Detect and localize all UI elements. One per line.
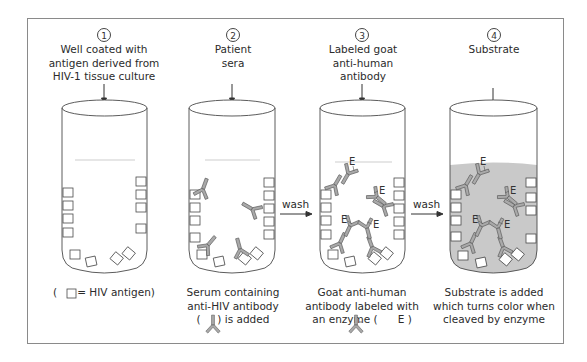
enzyme-label: E bbox=[349, 156, 355, 167]
enzyme-label: E bbox=[373, 219, 379, 230]
enzyme-label: E bbox=[341, 214, 347, 225]
well-1 bbox=[62, 100, 147, 273]
enzyme-label: E bbox=[504, 219, 510, 230]
antibodies-well-2 bbox=[192, 176, 263, 260]
antigen-legend-square bbox=[67, 289, 76, 298]
antigens-well-1 bbox=[63, 177, 146, 267]
enzyme-label: E bbox=[472, 214, 478, 225]
antibodies-well-3 bbox=[324, 162, 395, 258]
enzyme-label: E bbox=[510, 185, 516, 196]
down-arrows bbox=[102, 84, 496, 107]
elisa-diagram: E E E E E E E bbox=[0, 0, 587, 362]
enzyme-antibody-legend-icon bbox=[349, 315, 363, 333]
wash-arrows bbox=[280, 212, 443, 217]
enzyme-label: E bbox=[480, 156, 486, 167]
antigens-well-3 bbox=[321, 178, 404, 267]
enzyme-label: E bbox=[379, 185, 385, 196]
antibody-legend-icon bbox=[206, 315, 220, 333]
